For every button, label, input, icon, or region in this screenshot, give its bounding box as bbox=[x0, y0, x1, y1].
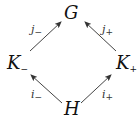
label-j-plus: j+ bbox=[99, 23, 113, 37]
label-i-plus: i+ bbox=[102, 88, 113, 102]
label-j-minus: j− bbox=[28, 23, 42, 37]
label-i-minus: i− bbox=[31, 88, 42, 102]
node-k-plus: K+ bbox=[115, 52, 137, 74]
node-g: G bbox=[64, 2, 78, 23]
commutative-diagram: G K− K+ H j− j+ i− i+ bbox=[0, 0, 139, 119]
node-k-minus: K− bbox=[6, 52, 28, 74]
node-h: H bbox=[63, 98, 80, 119]
